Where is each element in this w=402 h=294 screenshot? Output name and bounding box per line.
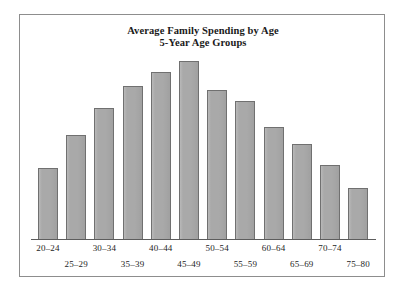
bar-25-29 — [66, 135, 86, 239]
bar-45-49 — [179, 61, 199, 239]
bar-55-59 — [235, 101, 255, 239]
bar-20-24 — [38, 168, 58, 239]
bar-40-44 — [151, 72, 171, 239]
bar-75-80 — [348, 188, 368, 239]
tick-label-70-74: 70–74 — [306, 243, 354, 253]
figure-frame: Average Family Spending by Age 5-Year Ag… — [19, 14, 385, 277]
tick-label-60-64: 60–64 — [250, 243, 298, 253]
tick-label-30-34: 30–34 — [80, 243, 128, 253]
tick-label-20-24: 20–24 — [24, 243, 72, 253]
plot-area: 20–2425–2930–3435–3940–4445–4950–5455–59… — [20, 15, 386, 278]
tick-label-25-29: 25–29 — [52, 259, 100, 269]
tick-label-75-80: 75–80 — [334, 259, 382, 269]
bar-50-54 — [207, 90, 227, 239]
tick-label-65-69: 65–69 — [278, 259, 326, 269]
x-axis-line — [31, 239, 376, 240]
bar-30-34 — [94, 108, 114, 239]
bar-70-74 — [320, 165, 340, 239]
tick-label-40-44: 40–44 — [137, 243, 185, 253]
bar-65-69 — [292, 144, 312, 239]
chart-figure: Average Family Spending by Age 5-Year Ag… — [0, 0, 402, 294]
tick-label-50-54: 50–54 — [193, 243, 241, 253]
tick-label-45-49: 45–49 — [165, 259, 213, 269]
tick-label-35-39: 35–39 — [109, 259, 157, 269]
bar-35-39 — [123, 86, 143, 239]
bar-60-64 — [264, 127, 284, 239]
tick-label-55-59: 55–59 — [221, 259, 269, 269]
